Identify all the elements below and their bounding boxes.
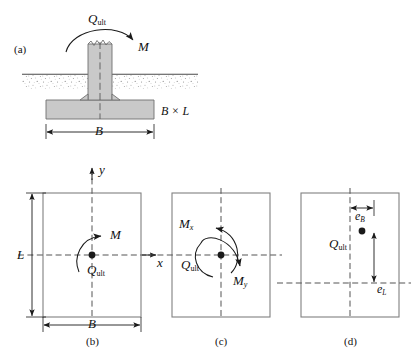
panel-a-width-label: B (95, 124, 103, 137)
panel-b-caption: (b) (86, 336, 99, 347)
load-point-c (218, 252, 225, 259)
panel-a-area-label: B × L (161, 105, 189, 117)
panel-b-length-label: L (17, 248, 24, 261)
panel-a-group (22, 30, 198, 139)
panel-b-axis-x-label: x (157, 256, 163, 269)
panel-b-group (18, 168, 156, 332)
panel-b-width-label: B (88, 317, 96, 330)
footing-haunch-left (80, 94, 88, 100)
panel-d-group (277, 188, 411, 317)
load-point-b (89, 252, 96, 259)
panel-d-load-label: Qult (329, 237, 347, 252)
panel-a-moment-label: M (138, 40, 149, 53)
panel-d-ecc-l-label: eL (377, 283, 386, 296)
panel-c-caption: (c) (215, 336, 227, 347)
panel-d-caption: (d) (344, 336, 357, 347)
panel-c-moment-x-label: Mx (179, 217, 193, 232)
panel-b-moment-label: M (110, 228, 121, 241)
panel-c-moment-y-label: My (233, 274, 247, 289)
panel-c-load-label: Qult (181, 258, 199, 273)
panel-d-ecc-b-label: eB (355, 210, 365, 223)
load-point-d (359, 228, 366, 235)
panel-c-group (148, 188, 282, 317)
footing-haunch-right (112, 94, 120, 100)
panel-b-axis-y-label: y (99, 163, 105, 176)
panel-a-load-label: Qult (88, 12, 106, 27)
figure-canvas (0, 0, 413, 355)
panel-b-load-label: Qult (87, 263, 105, 278)
panel-a-caption: (a) (14, 44, 26, 55)
